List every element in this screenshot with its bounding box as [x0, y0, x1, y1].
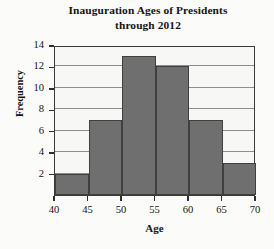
x-tick-mark-70: [254, 196, 255, 201]
y-tick-mark-2: [49, 174, 54, 175]
plot-area: [54, 46, 255, 196]
x-tick-label-50: 50: [108, 204, 134, 215]
x-axis-title: Age: [54, 222, 255, 234]
y-tick-label-12: 12: [20, 60, 44, 71]
y-tick-mark-12: [49, 67, 54, 68]
bar-40-45: [55, 174, 89, 195]
bar-60-65: [189, 120, 223, 195]
y-tick-label-6: 6: [20, 125, 44, 136]
y-tick-label-8: 8: [20, 103, 44, 114]
bar-55-60: [156, 66, 190, 195]
y-tick-label-10: 10: [20, 82, 44, 93]
chart-title-line-2: through 2012: [26, 18, 270, 33]
x-tick-mark-65: [221, 196, 222, 201]
y-tick-mark-8: [49, 110, 54, 111]
y-tick-mark-14: [49, 45, 54, 46]
x-tick-mark-50: [120, 196, 121, 201]
y-tick-mark-6: [49, 131, 54, 132]
y-tick-mark-4: [49, 152, 54, 153]
x-tick-mark-40: [53, 196, 54, 201]
chart-title-line-1: Inauguration Ages of Presidents: [26, 3, 270, 18]
bar-45-50: [89, 120, 123, 195]
x-tick-label-70: 70: [242, 204, 268, 215]
y-tick-mark-10: [49, 88, 54, 89]
bar-65-70: [223, 163, 257, 195]
x-tick-label-55: 55: [142, 204, 168, 215]
bar-50-55: [122, 56, 156, 195]
x-tick-mark-55: [154, 196, 155, 201]
x-tick-mark-60: [187, 196, 188, 201]
histogram-figure: Inauguration Ages of Presidents through …: [0, 0, 274, 249]
y-tick-label-14: 14: [20, 39, 44, 50]
chart-title: Inauguration Ages of Presidents through …: [26, 3, 270, 32]
x-tick-label-45: 45: [75, 204, 101, 215]
y-tick-label-2: 2: [20, 168, 44, 179]
y-tick-label-4: 4: [20, 146, 44, 157]
x-tick-label-65: 65: [209, 204, 235, 215]
x-tick-mark-45: [87, 196, 88, 201]
x-tick-label-60: 60: [175, 204, 201, 215]
x-tick-label-40: 40: [41, 204, 67, 215]
